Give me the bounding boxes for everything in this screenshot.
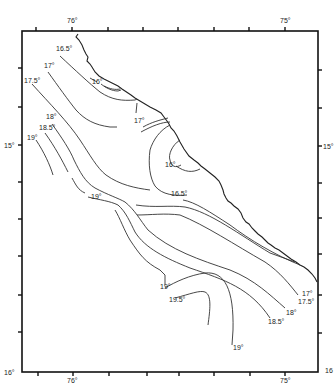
lon-label-top-76: 76° (67, 17, 78, 24)
lon-label-bottom-76: 76° (67, 377, 78, 384)
isotherm-label: 16.5° (171, 190, 188, 197)
isotherm-label: 19.5° (169, 296, 186, 303)
isotherm-label: 18° (286, 309, 297, 316)
isotherm-labels: 16.5° 17° 17.5° 16° 17° 18° 18.5° 19° 16… (24, 45, 315, 351)
lat-label-right-16: 16 (325, 367, 333, 374)
isotherm-label: 18° (46, 113, 57, 120)
isotherm-label: 16° (92, 78, 103, 85)
coastline (76, 34, 317, 282)
isotherm-label: 18.5° (268, 318, 285, 325)
lat-label-left-16: 16° (4, 369, 15, 376)
isotherm-label: 19° (233, 344, 244, 351)
isotherm-label: 16.5° (56, 45, 73, 52)
isotherm-lines (32, 56, 300, 345)
isotherm-label: 17° (44, 62, 55, 69)
isotherm-label: 19° (91, 193, 102, 200)
isotherm-label: 17.5° (298, 298, 315, 305)
isotherm-label: 17.5° (24, 77, 41, 84)
isotherm-label: 16° (165, 161, 176, 168)
lat-label-left-15: 15° (4, 142, 15, 149)
isotherm-label: 17° (134, 117, 145, 124)
isotherm-label: 19° (27, 134, 38, 141)
isotherm-label: 19° (160, 283, 171, 290)
lat-label-right-15: 15° (323, 143, 334, 150)
isotherm-label: 17° (302, 290, 313, 297)
isotherm-map: 76° 75° 76° 75° 15° 16° 15° 16 (0, 0, 335, 391)
isotherm-label: 18.5° (39, 124, 56, 131)
lon-label-bottom-75: 75° (280, 377, 291, 384)
lon-label-top-75: 75° (280, 17, 291, 24)
